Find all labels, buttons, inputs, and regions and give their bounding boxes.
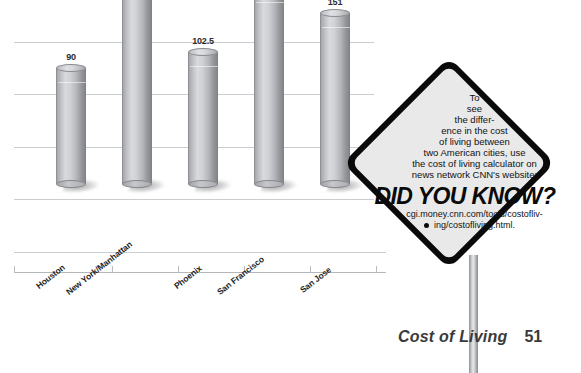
- callout-line: the differ-: [368, 114, 581, 125]
- bar-value-label: 90: [44, 52, 98, 62]
- axis-tick: [310, 266, 311, 272]
- bar-chart: 90 214.7 102.5: [0, 0, 400, 285]
- bar-bottom-cap: [188, 180, 218, 188]
- callout-headline: DID YOU KNOW?: [340, 183, 581, 210]
- callout-url-line[interactable]: cgi.money.cnn.com/tools/costofliv-: [368, 209, 581, 220]
- bar-top-cap: [188, 48, 218, 56]
- bar-phoenix[interactable]: 102.5: [188, 52, 218, 184]
- page-footer: Cost of Living 51: [398, 328, 542, 346]
- bar-highlight-ring: [190, 66, 218, 67]
- bar-bottom-cap: [254, 180, 284, 188]
- callout-line: ence in the cost: [368, 125, 581, 136]
- bar-top-cap: [56, 64, 86, 72]
- bar-san-francisco[interactable]: 172.8: [254, 0, 284, 184]
- bar-bottom-cap: [122, 180, 152, 188]
- bar-body: [122, 0, 152, 184]
- bar-body: [188, 52, 218, 184]
- gridline: [14, 199, 374, 200]
- bar-houston[interactable]: 90: [56, 68, 86, 184]
- sign-bolt-icon: [424, 223, 429, 228]
- callout-line: the cost of living calculator on: [368, 158, 581, 169]
- page-canvas: 90 214.7 102.5: [0, 0, 581, 373]
- footer-title: Cost of Living: [398, 328, 507, 346]
- bar-highlight-ring: [322, 27, 350, 28]
- axis-tick: [112, 266, 113, 272]
- category-label-houston: Houston: [34, 262, 67, 291]
- category-label-new-york-manhattan: New York/Manhattan: [64, 239, 134, 297]
- bar-highlight-ring: [58, 82, 86, 83]
- bar-body: [320, 13, 350, 184]
- bar-top-cap: [320, 9, 350, 17]
- bar-value-label: 102.5: [176, 36, 230, 46]
- callout-line: news network CNN's website:: [368, 169, 581, 180]
- axis-tick: [178, 266, 179, 272]
- callout-url-line[interactable]: ing/costofliving.html.: [368, 220, 581, 231]
- category-label-san-francisco: San Francisco: [215, 254, 266, 297]
- callout-line: of living between: [368, 136, 581, 147]
- bar-new-york-manhattan[interactable]: 214.7: [122, 0, 152, 184]
- callout-line: two American cities, use: [368, 147, 581, 158]
- category-label-san-jose: San Jose: [298, 265, 333, 295]
- bar-bottom-cap: [56, 180, 86, 188]
- bar-body: [56, 68, 86, 184]
- callout-line: see: [368, 103, 581, 114]
- category-label-phoenix: Phoenix: [172, 263, 204, 291]
- bar-body: [254, 0, 284, 184]
- bar-san-jose[interactable]: 151: [320, 13, 350, 184]
- footer-page-number: 51: [524, 328, 542, 346]
- did-you-know-callout: To see the differ- ence in the cost of l…: [368, 84, 581, 297]
- bar-value-label: 151: [308, 0, 362, 7]
- bar-highlight-ring: [256, 2, 284, 3]
- callout-line: To: [368, 92, 581, 103]
- axis-tick: [14, 266, 15, 272]
- axis-line: [14, 252, 386, 253]
